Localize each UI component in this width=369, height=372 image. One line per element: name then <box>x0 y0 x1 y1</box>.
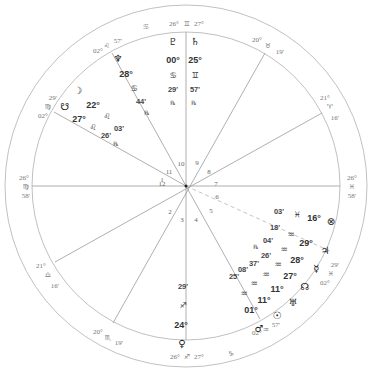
pluto-sign: ♋ <box>169 72 176 80</box>
house-number-8: 8 <box>207 169 211 176</box>
mars-minute: 25' <box>229 273 239 281</box>
north-node-icon: ☊ <box>301 282 310 292</box>
ic-sign: ♐ <box>184 354 190 361</box>
venus-sign: ♐ <box>179 302 186 310</box>
neptune-degree: 28° <box>119 70 133 79</box>
cusp6-sign: ♓ <box>328 271 334 278</box>
part-of-fortune-minute: 03' <box>274 208 284 216</box>
north-node-minute: 26' <box>261 252 271 260</box>
house-number-9: 9 <box>195 160 199 167</box>
house-number-4: 4 <box>194 217 198 224</box>
sun-icon: ☉ <box>273 311 282 321</box>
cusp8-sign: ♈ <box>327 104 333 111</box>
cusp2-degree: 21° <box>36 263 46 270</box>
pluto-degree: 00° <box>166 56 180 65</box>
ic-minute: 27° <box>194 354 204 361</box>
venus-minute: 29' <box>178 283 188 291</box>
mars-degree: 01° <box>244 306 258 315</box>
jupiter-minute: 18' <box>270 224 280 232</box>
house-number-10: 10 <box>178 161 185 168</box>
part-of-fortune-icon: ⊗ <box>327 217 335 227</box>
chart-wheel <box>0 0 369 372</box>
intercept-cancer-sign: ♋ <box>143 24 149 31</box>
neptune-minute: 44' <box>136 98 146 106</box>
neptune-sign: ♋ <box>130 85 137 93</box>
intercept-capricorn-sign: ♑ <box>228 351 234 358</box>
saturn-minute: 57' <box>190 86 200 94</box>
house-number-12: 12 <box>159 181 166 188</box>
house-number-3: 3 <box>180 217 184 224</box>
south-node-icon: ☋ <box>61 102 70 112</box>
saturn-retrograde: ℞ <box>191 100 196 106</box>
asc-degree: 26° <box>19 175 29 182</box>
uranus-sign: ♒ <box>262 271 269 279</box>
part-of-fortune-degree: 16° <box>307 214 321 223</box>
uranus-icon: ♅ <box>289 298 298 308</box>
cusp3-degree: 20° <box>93 329 103 336</box>
cusp2-minute: 16' <box>51 283 59 290</box>
jupiter-icon: ♃ <box>321 246 330 256</box>
house-number-7: 7 <box>214 181 218 188</box>
mc-degree: 26° <box>169 21 179 28</box>
south-node-sign: ♌ <box>89 124 96 132</box>
cusp9-minute: 19' <box>276 49 284 56</box>
cusp5-minute: 57' <box>272 322 280 329</box>
neptune-retrograde: ℞ <box>144 110 149 116</box>
cusp8-minute: 16' <box>331 115 339 122</box>
dsc-sign: ♓ <box>349 184 355 191</box>
part-of-fortune-sign: ♓ <box>293 211 300 219</box>
cusp11-degree: 02° <box>93 48 103 55</box>
moon-degree: 22° <box>86 101 100 110</box>
moon-sign: ♌ <box>103 113 110 121</box>
house-number-5: 5 <box>209 208 213 215</box>
asc-sign: ♍ <box>23 184 29 191</box>
cusp8-degree: 21° <box>320 95 330 102</box>
cusp12-sign: ♍ <box>45 104 51 111</box>
cusp6-minute: 29' <box>331 262 339 269</box>
cusp3-sign: ♏ <box>105 335 111 342</box>
jupiter-degree: 29° <box>299 239 313 248</box>
mercury-sign: ♒ <box>280 246 287 254</box>
ic-degree: 26° <box>170 354 180 361</box>
cusp2-sign: ♎ <box>45 272 51 279</box>
uranus-degree: 11° <box>270 285 283 294</box>
mercury-degree: 28° <box>290 256 304 265</box>
cusp12-minute: 29' <box>49 95 57 102</box>
mars-icon: ♂ <box>255 324 264 334</box>
moon-icon: ☽ <box>74 86 83 96</box>
house-number-6: 6 <box>215 194 219 201</box>
house-number-11: 11 <box>166 169 173 176</box>
cusp9-degree: 20° <box>252 37 262 44</box>
jupiter-sign: ♒ <box>287 231 294 239</box>
house-number-2: 2 <box>168 209 172 216</box>
sun-minute: 08' <box>238 266 248 274</box>
mc-sign: ♊ <box>184 21 190 28</box>
mars-sign: ♒ <box>240 290 247 298</box>
venus-degree: 24° <box>174 321 188 330</box>
south-node-minute: 26' <box>101 132 111 140</box>
saturn-icon: ♄ <box>191 37 200 47</box>
neptune-icon: ♆ <box>114 54 123 64</box>
mc-minute: 27° <box>194 21 204 28</box>
cusp6-degree: 02° <box>320 280 330 287</box>
cusp3-minute: 19' <box>115 340 123 347</box>
cusp11-sign: ♌ <box>104 43 110 50</box>
venus-icon: ♀ <box>178 339 185 349</box>
pluto-minute: 29' <box>168 86 178 94</box>
north-node-sign: ♒ <box>274 261 281 269</box>
mercury-icon: ☿ <box>313 264 319 274</box>
dsc-degree: 26° <box>347 175 357 182</box>
mercury-minute: 04' <box>263 237 273 245</box>
saturn-degree: 25° <box>188 56 202 65</box>
south-node-retrograde: ℞ <box>113 141 118 147</box>
cusp9-sign: ♉ <box>265 43 271 50</box>
north-node-degree: 27° <box>283 272 297 281</box>
pluto-retrograde: ℞ <box>170 100 175 106</box>
mercury-retrograde: ℞ <box>253 244 258 250</box>
cusp12-degree: 02° <box>38 113 48 120</box>
uranus-minute: 37' <box>249 260 259 268</box>
asc-minute: 58' <box>22 193 30 200</box>
cusp5-sign: ♒ <box>263 327 269 334</box>
dsc-minute: 58' <box>348 193 356 200</box>
south-node-degree: 27° <box>72 115 86 124</box>
